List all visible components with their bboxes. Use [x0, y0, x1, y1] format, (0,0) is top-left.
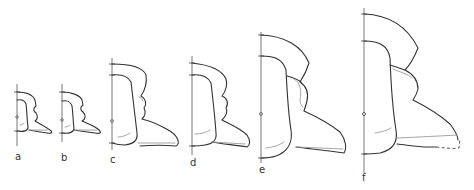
reference-dot [363, 113, 366, 116]
reference-dot [16, 116, 18, 118]
panel-d [189, 56, 250, 155]
panel-label-f: f [362, 173, 366, 183]
reference-dot [111, 120, 114, 123]
panel-a [14, 84, 52, 146]
panel-f [361, 8, 460, 173]
outer-outline [261, 35, 346, 153]
panel-label-c: c [110, 155, 116, 165]
reference-dot [61, 119, 63, 121]
panel-label-e: e [259, 165, 265, 175]
panel-label-b: b [61, 153, 67, 163]
growth-stages-diagram [0, 0, 474, 190]
panel-c [109, 58, 178, 150]
outer-outline [62, 92, 100, 133]
reference-dot [260, 113, 263, 116]
panel-label-a: a [15, 152, 21, 162]
panel-e [258, 32, 346, 163]
panel-label-d: d [190, 158, 196, 168]
panel-b [59, 84, 100, 142]
outer-outline [17, 92, 52, 133]
outer-outline [112, 64, 178, 146]
